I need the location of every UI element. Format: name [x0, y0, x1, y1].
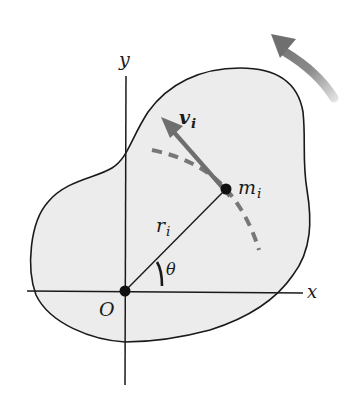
radius-label: ri [156, 216, 170, 239]
angle-label: θ [166, 262, 176, 278]
x-axis-label: x [307, 283, 317, 301]
origin-point [120, 286, 131, 297]
mass-symbol: m [238, 176, 256, 198]
radius-symbol: r [156, 214, 165, 236]
mass-subscript: i [257, 185, 261, 201]
diagram-canvas [0, 0, 353, 410]
origin-label: O [99, 300, 115, 319]
velocity-subscript: i [191, 115, 196, 131]
velocity-label: vi [179, 108, 196, 131]
y-axis [125, 76, 126, 385]
velocity-symbol: v [179, 106, 190, 128]
rigid-body-shape [31, 68, 310, 342]
y-axis-label: y [119, 50, 130, 69]
mass-label: mi [238, 178, 261, 201]
radius-subscript: i [166, 223, 170, 239]
mass-point [221, 184, 232, 195]
